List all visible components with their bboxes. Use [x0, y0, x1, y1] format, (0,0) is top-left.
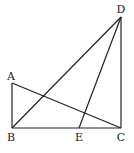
label-e: E	[75, 131, 83, 144]
segment-bd	[12, 17, 121, 128]
geometry-diagram: A B E C D	[0, 0, 134, 153]
label-a: A	[6, 70, 16, 83]
label-b: B	[7, 131, 15, 144]
label-d: D	[117, 3, 126, 16]
segment-ed	[79, 17, 121, 128]
label-c: C	[117, 131, 125, 144]
segment-ac	[12, 83, 121, 128]
